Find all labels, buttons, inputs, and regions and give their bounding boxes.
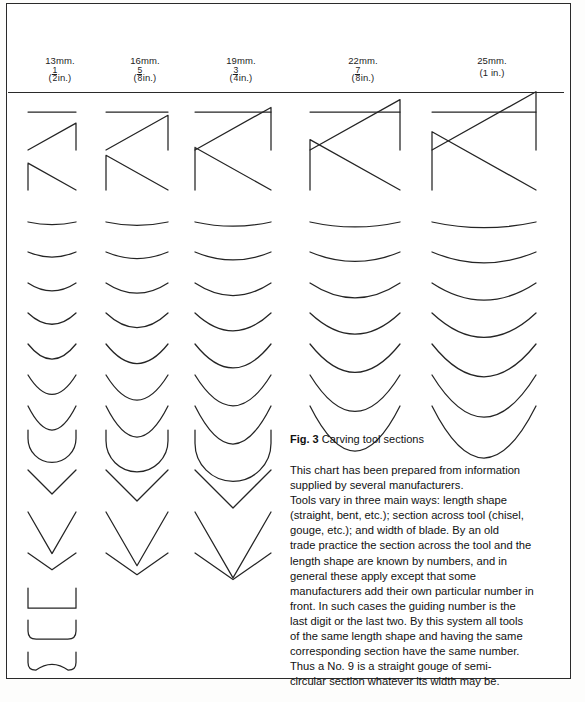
column-header-22mm: 22mm. (78in.): [311, 55, 415, 83]
column-header-mm: 19mm.: [189, 55, 293, 67]
body-text-line: manufacturers add their own particular n…: [290, 584, 562, 599]
body-text-line: supplied by several manufacturers.: [290, 478, 562, 493]
body-text-line: corresponding section have the same numb…: [290, 644, 562, 659]
body-text-line: Thus a No. 9 is a straight gouge of semi…: [290, 659, 562, 674]
fraction-five-eighths: 58: [137, 67, 142, 84]
inch-paren-open: (: [134, 72, 137, 83]
body-text-line: This chart has been prepared from inform…: [290, 463, 562, 478]
body-text-line: of the same length shape and having the …: [290, 629, 562, 644]
fraction-seven-eighths: 78: [355, 67, 360, 84]
column-header-mm: 16mm.: [93, 55, 197, 67]
fraction-three-quarters: 34: [233, 67, 238, 84]
body-text-line: last digit or the last two. By this syst…: [290, 614, 562, 629]
inch-suffix: in.): [143, 72, 157, 83]
figure-page: 13mm. (12in.) 16mm. (58in.) 19mm. (34in.…: [0, 0, 585, 702]
inch-paren-open: (: [49, 72, 52, 83]
body-text-line: front. In such cases the guiding number …: [290, 599, 562, 614]
inch-paren-open: (: [352, 72, 355, 83]
column-header-inch: (34in.): [189, 67, 293, 84]
figure-caption-text: Carving tool sections: [322, 433, 424, 445]
figure-body-text: This chart has been prepared from inform…: [290, 463, 562, 689]
inch-suffix: in.): [58, 72, 72, 83]
column-header-inch: (58in.): [93, 67, 197, 84]
body-text-line: trade practice the section across the to…: [290, 538, 562, 553]
column-header-inch: (1 in.): [440, 67, 544, 79]
column-header-mm: 25mm.: [440, 55, 544, 67]
body-text-line: Tools vary in three main ways: length sh…: [290, 493, 562, 508]
figure-caption-label: Fig. 3: [290, 433, 319, 445]
fraction-one-half: 12: [52, 67, 57, 84]
body-text-line: length shape are known by numbers, and i…: [290, 554, 562, 569]
column-headers: 13mm. (12in.) 16mm. (58in.) 19mm. (34in.…: [8, 55, 564, 89]
inch-suffix: in.): [361, 72, 375, 83]
header-divider-rule: [8, 92, 564, 93]
column-header-inch: (78in.): [311, 67, 415, 84]
body-text-line: general these apply except that some: [290, 569, 562, 584]
column-header-16mm: 16mm. (58in.): [93, 55, 197, 83]
inch-suffix: in.): [239, 72, 253, 83]
inch-paren-open: (: [230, 72, 233, 83]
column-header-19mm: 19mm. (34in.): [189, 55, 293, 83]
column-header-mm: 22mm.: [311, 55, 415, 67]
column-header-25mm: 25mm. (1 in.): [440, 55, 544, 78]
body-text-line: circular section whatever its width may …: [290, 674, 562, 689]
figure-caption: Fig. 3 Carving tool sections: [290, 432, 562, 446]
body-text-line: gouge, etc.); and width of blade. By an …: [290, 523, 562, 538]
figure-text-block: Fig. 3 Carving tool sections This chart …: [290, 432, 562, 689]
body-text-line: (straight, bent, etc.); section across t…: [290, 508, 562, 523]
